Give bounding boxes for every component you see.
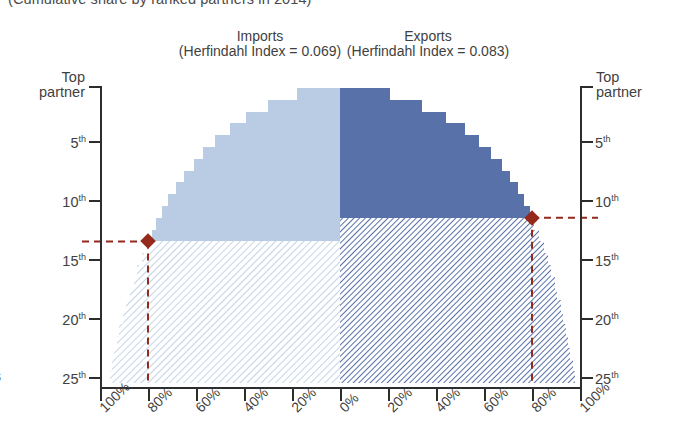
y-label-left-15: 15th (62, 250, 86, 268)
y-tick-right-10 (582, 200, 593, 202)
y-tick-right-25 (582, 377, 593, 379)
y-tick-left-25 (89, 377, 100, 379)
y-tick-right-5 (582, 141, 593, 143)
y-label-left-5: 5th (70, 132, 86, 150)
y-label-right-20: 20th (595, 309, 619, 327)
y-tick-left-10 (89, 200, 100, 202)
y-tick-right-20 (582, 318, 593, 320)
y-tick-left-20 (89, 318, 100, 320)
y-label-right-15: 15th (595, 250, 619, 268)
left-edge-fragment: s (0, 368, 1, 384)
y-label-right-top: Toppartner (596, 70, 642, 99)
y-label-left-10: 10th (62, 191, 86, 209)
y-axis-left (100, 86, 102, 387)
y-label-right-5: 5th (595, 132, 611, 150)
y-tick-right-15 (582, 259, 593, 261)
chart-canvas: (Cumulative share by ranked partners in … (0, 0, 677, 448)
y-label-right-10: 10th (595, 191, 619, 209)
y-label-left-top: Toppartner (39, 70, 85, 99)
y-tick-right-1 (582, 86, 593, 88)
y-tick-left-5 (89, 141, 100, 143)
y-axis-right (580, 86, 582, 387)
y-label-left-20: 20th (62, 309, 86, 327)
y-tick-left-15 (89, 259, 100, 261)
y-label-left-25: 25th (62, 368, 86, 386)
y-tick-left-1 (89, 86, 100, 88)
